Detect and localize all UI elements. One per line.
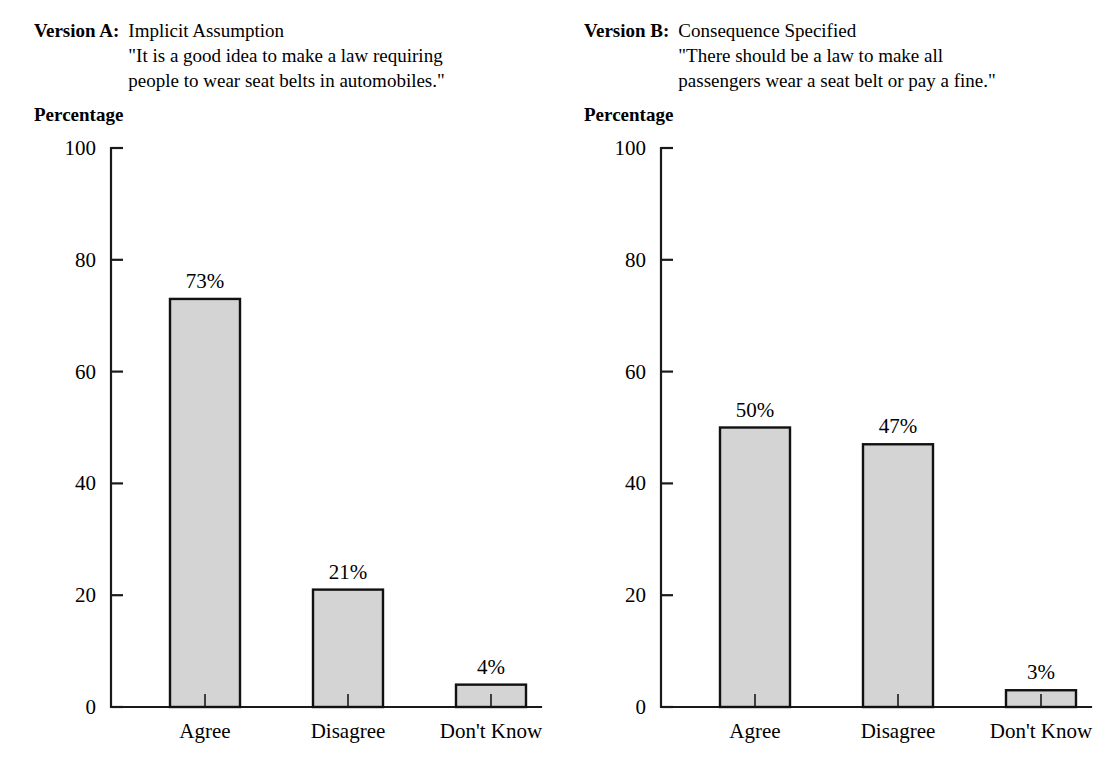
y-tick-label-b-60: 60 (625, 360, 646, 384)
chart-svg-a: 02040608010073%Agree21%Disagree4%Don't K… (0, 0, 549, 769)
bar-value-label-b-1: 47% (879, 414, 918, 438)
chart-panel-version-b: Version B: Consequence Specified "There … (550, 0, 1099, 769)
chart-svg-b: 02040608010050%Agree47%Disagree3%Don't K… (550, 0, 1099, 769)
y-tick-label-b-0: 0 (636, 695, 647, 719)
bar-value-label-b-0: 50% (736, 398, 775, 422)
bar-value-label-a-2: 4% (477, 655, 505, 679)
bar-b-1[interactable] (863, 444, 933, 707)
bar-value-label-b-2: 3% (1027, 660, 1055, 684)
y-tick-label-b-80: 80 (625, 248, 646, 272)
x-category-label-a-0: Agree (179, 719, 230, 743)
bar-value-label-a-1: 21% (329, 560, 368, 584)
y-tick-label-a-0: 0 (86, 695, 97, 719)
x-category-label-b-0: Agree (729, 719, 780, 743)
x-category-label-b-1: Disagree (861, 719, 936, 743)
bar-chart-version-b: 02040608010050%Agree47%Disagree3%Don't K… (550, 0, 1099, 769)
y-tick-label-a-20: 20 (75, 583, 96, 607)
x-category-label-a-1: Disagree (311, 719, 386, 743)
y-tick-label-a-80: 80 (75, 248, 96, 272)
y-tick-label-a-60: 60 (75, 360, 96, 384)
bar-value-label-a-0: 73% (186, 269, 225, 293)
bar-a-1[interactable] (313, 590, 383, 707)
y-tick-label-a-40: 40 (75, 471, 96, 495)
x-category-label-b-2: Don't Know (990, 719, 1093, 743)
bar-chart-version-a: 02040608010073%Agree21%Disagree4%Don't K… (0, 0, 549, 769)
bar-a-0[interactable] (170, 299, 240, 707)
y-tick-label-b-100: 100 (615, 136, 647, 160)
y-tick-label-b-20: 20 (625, 583, 646, 607)
y-tick-label-b-40: 40 (625, 471, 646, 495)
y-tick-label-a-100: 100 (65, 136, 97, 160)
chart-panel-version-a: Version A: Implicit Assumption "It is a … (0, 0, 549, 769)
x-category-label-a-2: Don't Know (440, 719, 543, 743)
bar-b-0[interactable] (720, 428, 790, 708)
